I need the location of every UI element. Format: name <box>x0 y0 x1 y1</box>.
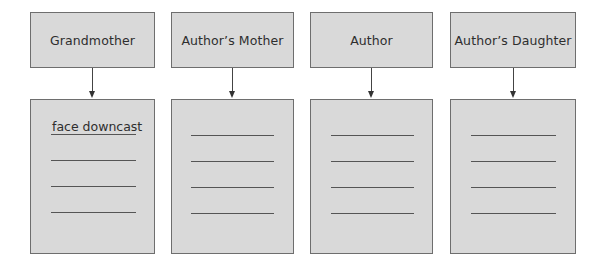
heading-label: Grandmother <box>50 33 135 48</box>
heading-box: Author <box>310 12 433 68</box>
answer-line <box>51 212 136 213</box>
heading-label: Author’s Daughter <box>454 33 571 48</box>
answer-line <box>471 187 556 188</box>
down-arrow-icon <box>513 68 514 98</box>
answer-line <box>471 213 556 214</box>
answer-line <box>471 161 556 162</box>
answer-line <box>331 213 414 214</box>
answer-line <box>51 160 136 161</box>
answer-line <box>191 135 274 136</box>
down-arrow-icon <box>92 68 93 98</box>
answer-line <box>331 187 414 188</box>
notes-box <box>171 99 294 254</box>
down-arrow-icon <box>371 68 372 98</box>
answer-line <box>471 135 556 136</box>
heading-label: Author’s Mother <box>181 33 283 48</box>
note-text: face downcast <box>52 119 142 134</box>
answer-line <box>191 187 274 188</box>
answer-line <box>191 161 274 162</box>
answer-line <box>191 213 274 214</box>
down-arrow-icon <box>232 68 233 98</box>
heading-box: Author’s Mother <box>171 12 294 68</box>
answer-line <box>331 161 414 162</box>
notes-box <box>450 99 576 254</box>
heading-label: Author <box>350 33 393 48</box>
heading-box: Author’s Daughter <box>450 12 576 68</box>
notes-box: face downcast <box>30 99 155 254</box>
notes-box <box>310 99 433 254</box>
heading-box: Grandmother <box>30 12 155 68</box>
answer-line <box>51 134 136 135</box>
answer-line <box>331 135 414 136</box>
answer-line <box>51 186 136 187</box>
